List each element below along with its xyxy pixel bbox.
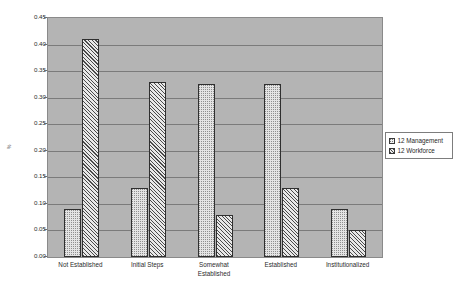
plot-area (47, 17, 383, 258)
y-axis-tick-mark (44, 123, 47, 124)
chart-legend: 12 Management12 Workforce (385, 132, 453, 159)
y-axis-tick-label: 0.15 (20, 172, 46, 180)
legend-item-label: 12 Workforce (398, 146, 435, 155)
y-axis-tick-mark (44, 150, 47, 151)
bar (216, 215, 233, 257)
y-axis-tick-mark (44, 176, 47, 177)
bar (349, 230, 366, 257)
bar (282, 188, 299, 257)
y-axis-tick-mark (44, 203, 47, 204)
legend-swatch-icon (389, 138, 395, 144)
bar (82, 39, 99, 257)
x-axis-tick-label: Institutionalized (304, 261, 391, 270)
legend-item-label: 12 Management (398, 136, 444, 145)
y-axis-tick-label: 0.00 (20, 252, 46, 260)
legend-item[interactable]: 12 Workforce (389, 146, 450, 155)
y-axis-tick-mark (44, 97, 47, 98)
bar-chart: % 0.450.400.350.300.250.200.150.100.050.… (0, 0, 455, 299)
y-axis-tick-mark (44, 70, 47, 71)
y-axis-tick-label: 0.30 (20, 93, 46, 101)
x-axis-tick-labels: Not EstablishedInitial StepsSomewhat Est… (47, 261, 383, 297)
y-axis-tick-label: 0.45 (20, 13, 46, 21)
bar (264, 84, 281, 257)
bar (131, 188, 148, 257)
y-axis-label: % (1, 132, 17, 162)
y-axis-tick-labels: 0.450.400.350.300.250.200.150.100.050.00 (16, 0, 46, 299)
y-axis-tick-mark (44, 17, 47, 18)
bar (331, 209, 348, 257)
y-axis-tick-mark (44, 44, 47, 45)
y-axis-tick-label: 0.10 (20, 199, 46, 207)
bar (198, 84, 215, 257)
y-axis-tick-mark (44, 256, 47, 257)
legend-swatch-icon (389, 148, 395, 154)
y-axis-tick-label: 0.25 (20, 119, 46, 127)
legend-item[interactable]: 12 Management (389, 136, 450, 145)
y-axis-tick-mark (44, 229, 47, 230)
y-axis-tick-label: 0.40 (20, 40, 46, 48)
bar (149, 82, 166, 257)
y-axis-tick-label: 0.05 (20, 225, 46, 233)
bar (64, 209, 81, 257)
y-axis-tick-label: 0.20 (20, 146, 46, 154)
y-axis-tick-label: 0.35 (20, 66, 46, 74)
